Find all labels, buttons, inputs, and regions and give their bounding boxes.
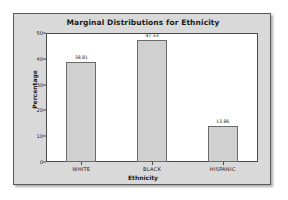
x-tick-mark <box>223 162 224 165</box>
y-tick-mark <box>43 136 46 137</box>
y-tick-label: 10 <box>36 133 43 139</box>
y-tick-label: 50 <box>36 30 43 36</box>
x-category-label: HISPANIC <box>210 166 236 172</box>
y-tick-label: 40 <box>36 56 43 62</box>
y-tick-mark <box>43 58 46 59</box>
y-tick-label: 20 <box>36 107 43 113</box>
x-axis-label: Ethnicity <box>14 174 272 181</box>
y-tick-mark <box>43 162 46 163</box>
bar-value-label: 13.86 <box>216 119 229 124</box>
bar-black <box>137 40 167 162</box>
x-tick-mark <box>81 162 82 165</box>
y-tick-label: 30 <box>36 82 43 88</box>
x-category-label: WHITE <box>72 166 90 172</box>
x-category-label: BLACK <box>143 166 161 172</box>
bar-value-label: 38.81 <box>75 55 88 60</box>
bars-layer: 38.8147.3313.86 <box>46 33 258 162</box>
y-tick-mark <box>43 84 46 85</box>
bar-white <box>66 62 96 162</box>
y-tick-mark <box>43 110 46 111</box>
chart-title: Marginal Distributions for Ethnicity <box>14 18 272 27</box>
bar-hispanic <box>208 126 238 162</box>
chart-panel: Marginal Distributions for Ethnicity Per… <box>13 13 271 185</box>
y-axis-ticks: 01020304050 <box>26 33 43 162</box>
chart-page: Marginal Distributions for Ethnicity Per… <box>0 0 288 200</box>
y-tick-mark <box>43 33 46 34</box>
x-tick-mark <box>152 162 153 165</box>
bar-value-label: 47.33 <box>145 33 158 38</box>
